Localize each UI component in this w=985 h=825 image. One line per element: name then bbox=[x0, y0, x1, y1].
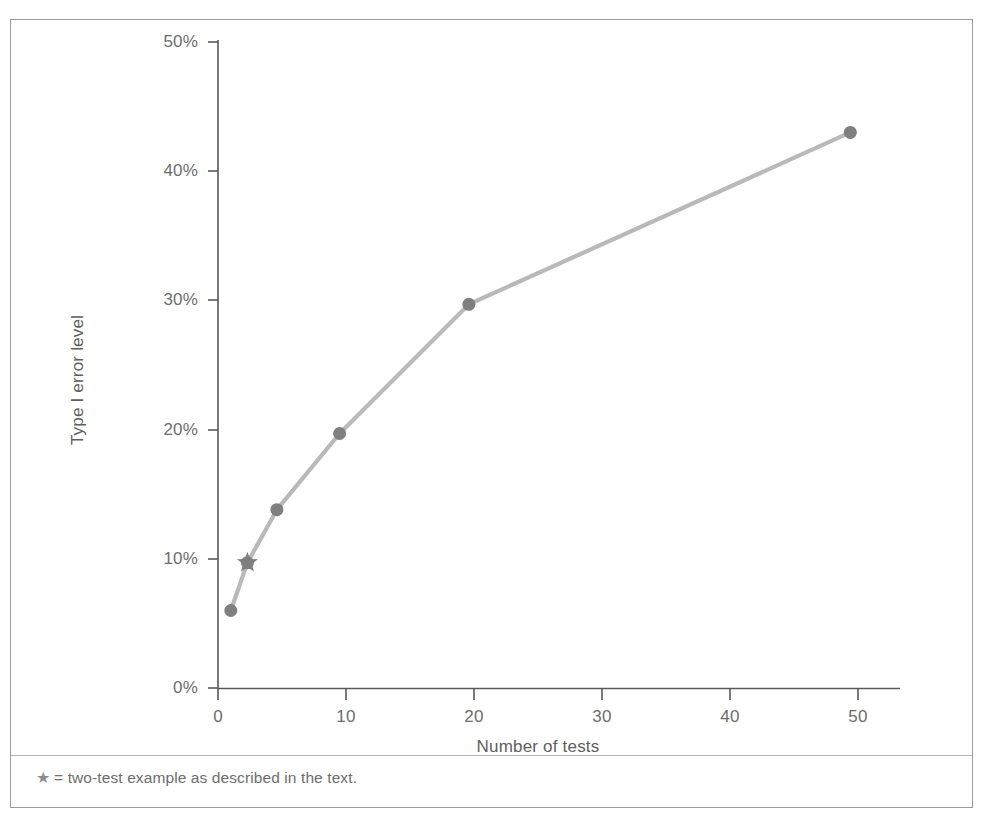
data-point-marker bbox=[333, 427, 346, 440]
data-point-marker bbox=[224, 604, 237, 617]
data-point-marker bbox=[462, 298, 475, 311]
star-icon: ★ bbox=[36, 769, 50, 786]
footnote: ★= two-test example as described in the … bbox=[36, 768, 357, 787]
data-point-marker bbox=[844, 126, 857, 139]
data-line bbox=[231, 132, 851, 610]
figure-root: 50% 40% 30% 20% 10% 0% 0 10 20 30 40 50 … bbox=[0, 0, 985, 825]
x-axis-ticks bbox=[218, 688, 858, 700]
data-point-marker bbox=[270, 503, 283, 516]
data-point-markers bbox=[224, 126, 857, 617]
y-axis-ticks bbox=[208, 42, 218, 688]
footnote-text: = two-test example as described in the t… bbox=[54, 769, 357, 786]
footnote-separator bbox=[11, 755, 972, 756]
line-chart-plot bbox=[0, 0, 985, 825]
